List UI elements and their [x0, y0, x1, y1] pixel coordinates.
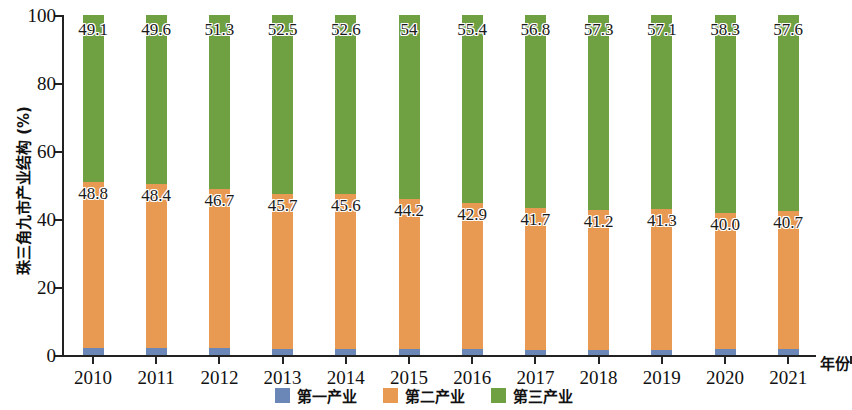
bar-group[interactable]: 41.756.8: [525, 15, 546, 355]
bar-group[interactable]: 42.955.4: [462, 15, 483, 355]
bar-segment[interactable]: [525, 350, 546, 355]
x-tick-mark: [345, 356, 347, 364]
bar-segment[interactable]: [335, 194, 356, 349]
y-tick-label: 60: [37, 141, 56, 163]
bar-segment[interactable]: [399, 15, 420, 199]
bar-value-label: 48.8: [78, 184, 108, 204]
y-tick-label: 80: [37, 73, 56, 95]
bar-segment[interactable]: [209, 189, 230, 348]
legend-label: 第三产业: [513, 385, 573, 406]
legend-item[interactable]: 第一产业: [275, 385, 357, 406]
bar-group[interactable]: 48.849.1: [83, 15, 104, 355]
bar-group[interactable]: 48.449.6: [146, 15, 167, 355]
bar-value-label: 54: [401, 20, 418, 40]
bar-segment[interactable]: [778, 349, 799, 355]
bar-segment[interactable]: [272, 15, 293, 194]
bar-segment[interactable]: [83, 348, 104, 355]
bar-segment[interactable]: [715, 15, 736, 213]
bar-value-label: 44.2: [394, 201, 424, 221]
bar-segment[interactable]: [715, 349, 736, 355]
bar-segment[interactable]: [399, 349, 420, 355]
x-axis-title: 年份: [820, 352, 850, 373]
plot-area: 020406080100 201020112012201320142015201…: [62, 15, 815, 355]
x-tick-mark: [598, 356, 600, 364]
bar-value-label: 52.6: [331, 20, 361, 40]
x-tick-mark: [661, 356, 663, 364]
bar-group[interactable]: 41.357.1: [651, 15, 672, 355]
bar-value-label: 57.3: [584, 20, 614, 40]
bar-segment[interactable]: [588, 15, 609, 210]
bar-segment[interactable]: [651, 350, 672, 355]
bar-group[interactable]: 45.652.6: [335, 15, 356, 355]
bar-value-label: 55.4: [457, 20, 487, 40]
legend-item[interactable]: 第二产业: [383, 385, 465, 406]
bar-segment[interactable]: [272, 349, 293, 355]
bar-value-label: 57.6: [773, 20, 803, 40]
bar-segment[interactable]: [335, 15, 356, 194]
legend-swatch: [275, 388, 290, 403]
bar-segment[interactable]: [83, 15, 104, 182]
bar-value-label: 40.0: [710, 215, 740, 235]
bar-value-label: 41.7: [521, 210, 551, 230]
bar-value-label: 45.6: [331, 196, 361, 216]
y-tick-mark: [55, 355, 62, 357]
legend-label: 第一产业: [297, 385, 357, 406]
bar-segment[interactable]: [335, 349, 356, 355]
bar-group[interactable]: 40.058.3: [715, 15, 736, 355]
y-tick-mark: [55, 83, 62, 85]
bar-value-label: 51.3: [205, 20, 235, 40]
bar-value-label: 48.4: [141, 186, 171, 206]
bar-value-label: 49.6: [141, 20, 171, 40]
bar-group[interactable]: 44.254: [399, 15, 420, 355]
bar-value-label: 56.8: [521, 20, 551, 40]
bar-segment[interactable]: [209, 348, 230, 355]
x-tick-mark: [282, 356, 284, 364]
bar-value-label: 41.2: [584, 212, 614, 232]
bar-group[interactable]: 46.751.3: [209, 15, 230, 355]
y-tick-label: 100: [28, 5, 57, 27]
y-tick-mark: [55, 151, 62, 153]
bar-segment[interactable]: [462, 15, 483, 203]
y-tick-label: 20: [37, 277, 56, 299]
x-tick-mark: [787, 356, 789, 364]
chart-legend: 第一产业第二产业第三产业: [0, 385, 847, 406]
y-tick-mark: [55, 219, 62, 221]
bar-segment[interactable]: [83, 182, 104, 348]
bar-segment[interactable]: [272, 194, 293, 349]
bar-segment[interactable]: [651, 15, 672, 209]
bar-value-label: 46.7: [205, 191, 235, 211]
x-tick-mark: [92, 356, 94, 364]
legend-item[interactable]: 第三产业: [491, 385, 573, 406]
bar-value-label: 45.7: [268, 196, 298, 216]
bar-segment[interactable]: [146, 348, 167, 355]
y-tick-mark: [55, 15, 62, 17]
bar-segment[interactable]: [588, 350, 609, 355]
bar-group[interactable]: 45.752.5: [272, 15, 293, 355]
bar-segment[interactable]: [146, 15, 167, 184]
bar-segment[interactable]: [399, 199, 420, 349]
y-axis-title: 珠三角九市产业结构 (%): [12, 41, 33, 341]
x-tick-mark: [218, 356, 220, 364]
x-tick-mark: [534, 356, 536, 364]
bar-value-label: 40.7: [773, 213, 803, 233]
bar-value-label: 57.1: [647, 20, 677, 40]
bar-segment[interactable]: [525, 15, 546, 208]
bar-segment[interactable]: [778, 15, 799, 211]
legend-swatch: [383, 388, 398, 403]
bar-segment[interactable]: [462, 349, 483, 355]
x-tick-mark: [724, 356, 726, 364]
bar-group[interactable]: 41.257.3: [588, 15, 609, 355]
bar-value-label: 52.5: [268, 20, 298, 40]
bar-segment[interactable]: [146, 184, 167, 349]
x-tick-mark: [155, 356, 157, 364]
bar-segment[interactable]: [209, 15, 230, 189]
y-axis-line: [62, 15, 64, 356]
bar-value-label: 42.9: [457, 205, 487, 225]
bar-value-label: 41.3: [647, 211, 677, 231]
y-tick-label: 40: [37, 209, 56, 231]
bar-group[interactable]: 40.757.6: [778, 15, 799, 355]
y-tick-label: 0: [47, 345, 57, 367]
bar-value-label: 49.1: [78, 20, 108, 40]
bar-value-label: 58.3: [710, 20, 740, 40]
x-tick-mark: [408, 356, 410, 364]
